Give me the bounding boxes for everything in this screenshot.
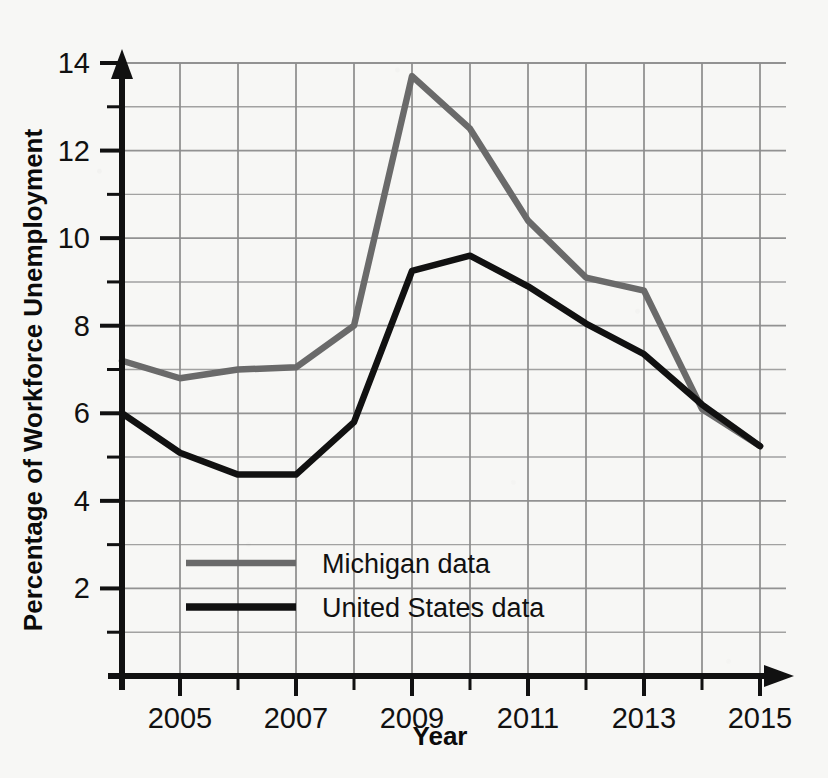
series-line-united-states-data [122, 256, 760, 475]
x-axis-tick-label: 2011 [497, 702, 559, 734]
x-axis-title: Year [413, 721, 468, 751]
data-series-layer [122, 76, 760, 474]
y-axis-tick-label: 2 [74, 572, 90, 604]
chart-legend: Michigan dataUnited States data [186, 549, 545, 623]
legend-label: United States data [322, 593, 545, 623]
x-axis-arrowhead [764, 665, 794, 687]
x-axis-tick-labels: 200520072009201120132015 [148, 702, 793, 734]
x-axis-tick-label: 2015 [728, 702, 793, 734]
y-axis-tick-labels: 2468101214 [58, 47, 90, 604]
y-axis-tick-label: 12 [58, 135, 90, 167]
unemployment-line-chart: 2468101214 200520072009201120132015 Perc… [0, 0, 828, 778]
chart-canvas: 2468101214 200520072009201120132015 Perc… [0, 0, 828, 778]
legend-label: Michigan data [322, 549, 491, 579]
y-axis-tick-label: 4 [74, 485, 90, 517]
y-axis-tick-label: 6 [74, 397, 90, 429]
x-axis-tick-label: 2005 [148, 702, 213, 734]
y-axis-tick-label: 10 [58, 222, 90, 254]
y-axis-title: Percentage of Workforce Unemployment [18, 129, 48, 632]
y-axis-tick-label: 8 [74, 310, 90, 342]
x-axis-tick-label: 2013 [612, 702, 677, 734]
x-axis-tick-label: 2007 [264, 702, 329, 734]
y-axis-tick-marks [100, 63, 122, 632]
gridlines-horizontal-major [122, 63, 786, 588]
y-axis-tick-label: 14 [58, 47, 90, 79]
